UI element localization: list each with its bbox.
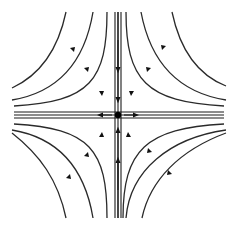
phase-portrait bbox=[0, 0, 238, 229]
arrow-icon bbox=[167, 170, 172, 175]
arrow-icon bbox=[146, 67, 151, 72]
arrow-icon bbox=[126, 132, 131, 137]
arrow-icon bbox=[99, 132, 104, 137]
arrow-icon bbox=[84, 67, 89, 72]
equilibrium-point bbox=[115, 112, 121, 118]
arrow-icon bbox=[70, 47, 75, 52]
arrow-icon bbox=[66, 174, 71, 179]
arrow-icon bbox=[129, 91, 134, 96]
arrow-icon bbox=[99, 91, 104, 96]
arrow-icon bbox=[84, 152, 89, 157]
quadrant-bottom-right bbox=[123, 124, 226, 218]
quadrant-bottom-left bbox=[12, 124, 107, 218]
quadrant-top-right bbox=[126, 12, 226, 106]
arrow-icon bbox=[147, 148, 152, 153]
arrow-icon bbox=[161, 45, 166, 50]
quadrant-top-left bbox=[12, 12, 107, 106]
